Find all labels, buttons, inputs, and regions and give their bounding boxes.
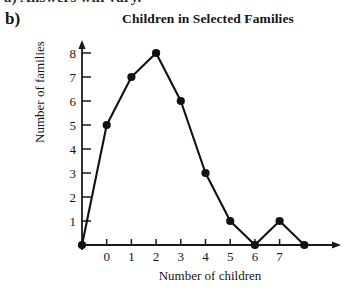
svg-text:7: 7: [70, 70, 77, 85]
data-line: [82, 53, 304, 245]
svg-text:2: 2: [153, 249, 160, 264]
y-axis-ticks: 12345678: [70, 46, 92, 229]
svg-text:6: 6: [252, 249, 259, 264]
svg-text:5: 5: [70, 118, 77, 133]
svg-text:4: 4: [70, 142, 77, 157]
svg-text:8: 8: [70, 46, 77, 61]
svg-text:3: 3: [178, 249, 185, 264]
line-chart-plot: 01234567 12345678: [0, 0, 353, 295]
svg-text:6: 6: [70, 94, 77, 109]
data-markers: [78, 49, 309, 249]
svg-text:2: 2: [70, 190, 77, 205]
svg-text:0: 0: [103, 249, 110, 264]
svg-text:7: 7: [276, 249, 283, 264]
svg-text:1: 1: [70, 214, 77, 229]
chart-axes: [78, 40, 341, 250]
y-axis-label: Number of families: [32, 12, 48, 172]
x-axis-label: Number of children: [120, 268, 300, 284]
svg-text:4: 4: [202, 249, 209, 264]
svg-text:1: 1: [128, 249, 135, 264]
svg-text:3: 3: [70, 166, 77, 181]
svg-text:5: 5: [227, 249, 234, 264]
